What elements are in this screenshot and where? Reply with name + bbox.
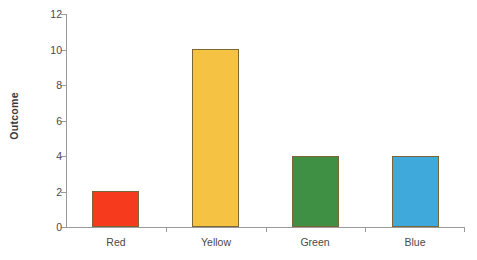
y-tick-label: 10	[50, 44, 62, 56]
x-tick-label-green: Green	[300, 236, 329, 248]
x-tick-label-red: Red	[106, 236, 125, 248]
x-tick-label-blue: Blue	[404, 236, 425, 248]
bar-green[interactable]	[292, 156, 339, 227]
y-tick-label: 2	[56, 186, 62, 198]
y-axis-line	[66, 14, 67, 228]
y-tick-label: 8	[56, 79, 62, 91]
bar-red[interactable]	[92, 191, 139, 227]
bar-chart-figure: Outcome 024681012 RedYellowGreenBlue	[0, 0, 477, 260]
bar-yellow[interactable]	[192, 49, 239, 227]
x-tick-mark	[166, 228, 167, 232]
x-tick-label-yellow: Yellow	[201, 236, 231, 248]
x-tick-mark	[266, 228, 267, 232]
y-tick-label: 4	[56, 150, 62, 162]
bar-blue[interactable]	[392, 156, 439, 227]
y-axis-title-text: Outcome	[8, 92, 20, 140]
y-tick-label: 12	[50, 8, 62, 20]
x-tick-mark	[464, 228, 465, 232]
y-axis-title: Outcome	[2, 0, 26, 232]
x-tick-mark	[365, 228, 366, 232]
y-tick-label: 0	[56, 221, 62, 233]
plot-area: 024681012 RedYellowGreenBlue	[66, 14, 465, 228]
y-tick-label: 6	[56, 115, 62, 127]
